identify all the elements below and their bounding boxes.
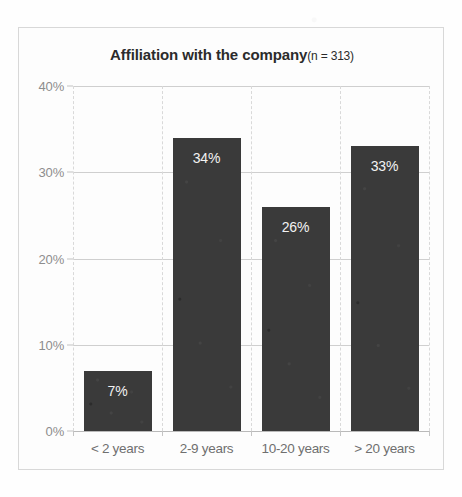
x-tick-mark-0 — [73, 431, 74, 436]
y-axis-label-10: 10% — [39, 337, 64, 352]
y-axis-label-20: 20% — [39, 251, 64, 266]
y-axis-label-0: 0% — [46, 424, 64, 439]
y-axis-label-40: 40% — [39, 79, 64, 94]
bar-value-label: 33% — [351, 158, 419, 174]
bar[interactable]: 7% — [84, 371, 152, 431]
bar-value-label: 26% — [262, 219, 330, 235]
x-axis-category-label: > 20 years — [354, 441, 414, 456]
x-tick-mark-3 — [340, 431, 341, 436]
x-axis-category-label: 2-9 years — [180, 441, 234, 456]
bar-group: 26%10-20 years — [251, 86, 340, 431]
x-axis-category-label: < 2 years — [91, 441, 144, 456]
bar-value-label: 34% — [173, 150, 241, 166]
bar-group: 7%< 2 years — [73, 86, 162, 431]
gridline-x-4 — [429, 86, 430, 431]
chart-title-sample-size: (n = 313) — [307, 49, 354, 63]
chart-title-main: Affiliation with the company — [110, 46, 307, 63]
x-axis-category-label: 10-20 years — [262, 441, 330, 456]
x-tick-mark-1 — [162, 431, 163, 436]
plot-area: 0%10%20%30%40%7%< 2 years34%2-9 years26%… — [73, 86, 429, 431]
bar[interactable]: 26% — [262, 207, 330, 431]
chart-frame: Affiliation with the company(n = 313) 0%… — [18, 27, 444, 470]
x-tick-mark-2 — [251, 431, 252, 436]
bar-value-label: 7% — [84, 383, 152, 399]
bar-group: 34%2-9 years — [162, 86, 251, 431]
x-tick-mark-4 — [429, 431, 430, 436]
bar[interactable]: 34% — [173, 138, 241, 431]
bar[interactable]: 33% — [351, 146, 419, 431]
bar-group: 33%> 20 years — [340, 86, 429, 431]
chart-title: Affiliation with the company(n = 313) — [19, 46, 445, 64]
y-axis-label-30: 30% — [39, 165, 64, 180]
